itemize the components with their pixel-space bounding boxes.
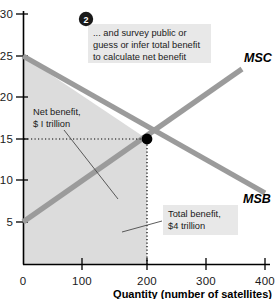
y-tick-label-30: 30 xyxy=(0,8,13,20)
y-tick-label-10: 10 xyxy=(0,174,13,186)
step2-callout-line2: guess or infer total benefit xyxy=(93,40,200,50)
step2-callout-line3: to calculate net benefit xyxy=(93,52,186,62)
y-tick-label-25: 25 xyxy=(0,50,13,62)
x-axis-title: Quantity (number of satellites) xyxy=(113,288,272,299)
total-benefit-shaded-area xyxy=(23,56,147,264)
step2-callout-line1: ... and survey public or xyxy=(93,28,187,38)
y-tick-label-20: 20 xyxy=(0,91,13,103)
economics-line-chart: 5 10 15 20 25 30 0 100 200 300 400 Quant… xyxy=(0,0,278,299)
x-tick-label-100: 100 xyxy=(72,275,92,287)
total-benefit-label-line2: $4 trillion xyxy=(168,221,205,231)
equilibrium-point-marker xyxy=(142,134,153,145)
y-tick-label-5: 5 xyxy=(6,216,13,228)
x-tick-label-300: 300 xyxy=(196,275,216,287)
net-benefit-label-line1: Net benefit, xyxy=(33,107,81,117)
x-tick-label-400: 400 xyxy=(255,275,275,287)
x-tick-label-200: 200 xyxy=(137,275,157,287)
y-tick-label-15: 15 xyxy=(0,133,13,145)
chart-container: 5 10 15 20 25 30 0 100 200 300 400 Quant… xyxy=(0,0,278,299)
msc-label: MSC xyxy=(244,51,273,65)
step-number-label: 2 xyxy=(83,15,88,25)
total-benefit-label-line1: Total benefit, xyxy=(168,209,221,219)
x-tick-label-0: 0 xyxy=(20,275,27,287)
msb-label: MSB xyxy=(243,192,271,206)
net-benefit-label-line2: $ I trillion xyxy=(33,119,70,129)
